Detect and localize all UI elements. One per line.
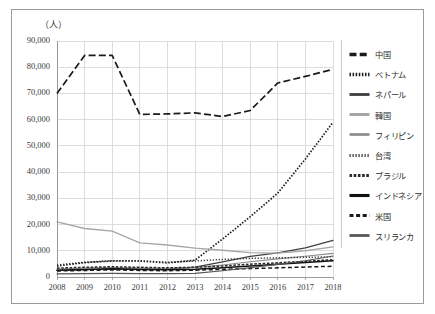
legend-item-9[interactable]: 米国 <box>349 206 427 226</box>
y-tick-label: 80,000 <box>6 61 50 71</box>
figure-container: （人） 010,00020,00030,00040,00050,00060,00… <box>0 0 435 314</box>
legend-key-icon <box>349 69 370 80</box>
legend-item-label: インドネシア <box>375 189 422 201</box>
y-tick-label: 30,000 <box>6 192 50 202</box>
legend-key-icon <box>349 109 370 120</box>
y-tick-label: 40,000 <box>6 166 50 176</box>
legend-item-6[interactable]: 台湾 <box>349 145 427 165</box>
y-tick-label: 10,000 <box>6 245 50 255</box>
legend-item-4[interactable]: 韓国 <box>349 105 427 125</box>
legend-item-5[interactable]: フィリピン <box>349 125 427 145</box>
y-tick-label: 70,000 <box>6 87 50 97</box>
x-tick-label: 2018 <box>316 282 350 292</box>
legend-item-3[interactable]: ネパール <box>349 84 427 104</box>
chart-legend: 中国ベトナムネパール韓国フィリピン台湾ブラジルインドネシア米国スリランカ <box>349 44 427 246</box>
y-tick-label: 90,000 <box>6 35 50 45</box>
y-tick-label: 0 <box>6 271 50 281</box>
legend-item-label: 米国 <box>375 210 391 222</box>
legend-item-label: フィリピン <box>375 129 414 141</box>
legend-key-icon <box>349 230 370 241</box>
legend-item-1[interactable]: 中国 <box>349 44 427 64</box>
legend-item-label: ネパール <box>375 88 406 100</box>
legend-key-icon <box>349 150 370 161</box>
legend-item-label: ベトナム <box>375 68 406 80</box>
legend-item-10[interactable]: スリランカ <box>349 226 427 246</box>
legend-key-icon <box>349 170 370 181</box>
legend-key-icon <box>349 129 370 140</box>
legend-key-icon <box>349 210 370 221</box>
legend-key-icon <box>349 190 370 201</box>
y-tick-label: 60,000 <box>6 114 50 124</box>
legend-item-label: ブラジル <box>375 169 406 181</box>
legend-item-label: 台湾 <box>375 149 391 161</box>
legend-item-8[interactable]: インドネシア <box>349 185 427 205</box>
legend-key-icon <box>349 89 370 100</box>
legend-key-icon <box>349 49 370 60</box>
legend-item-7[interactable]: ブラジル <box>349 165 427 185</box>
legend-item-label: スリランカ <box>375 230 414 242</box>
y-axis-unit-label: （人） <box>40 18 67 31</box>
y-tick-label: 20,000 <box>6 219 50 229</box>
legend-item-label: 中国 <box>375 48 391 60</box>
legend-divider <box>341 40 342 248</box>
y-tick-label: 50,000 <box>6 140 50 150</box>
gridlines <box>57 41 333 277</box>
legend-item-2[interactable]: ベトナム <box>349 64 427 84</box>
legend-item-label: 韓国 <box>375 109 391 121</box>
